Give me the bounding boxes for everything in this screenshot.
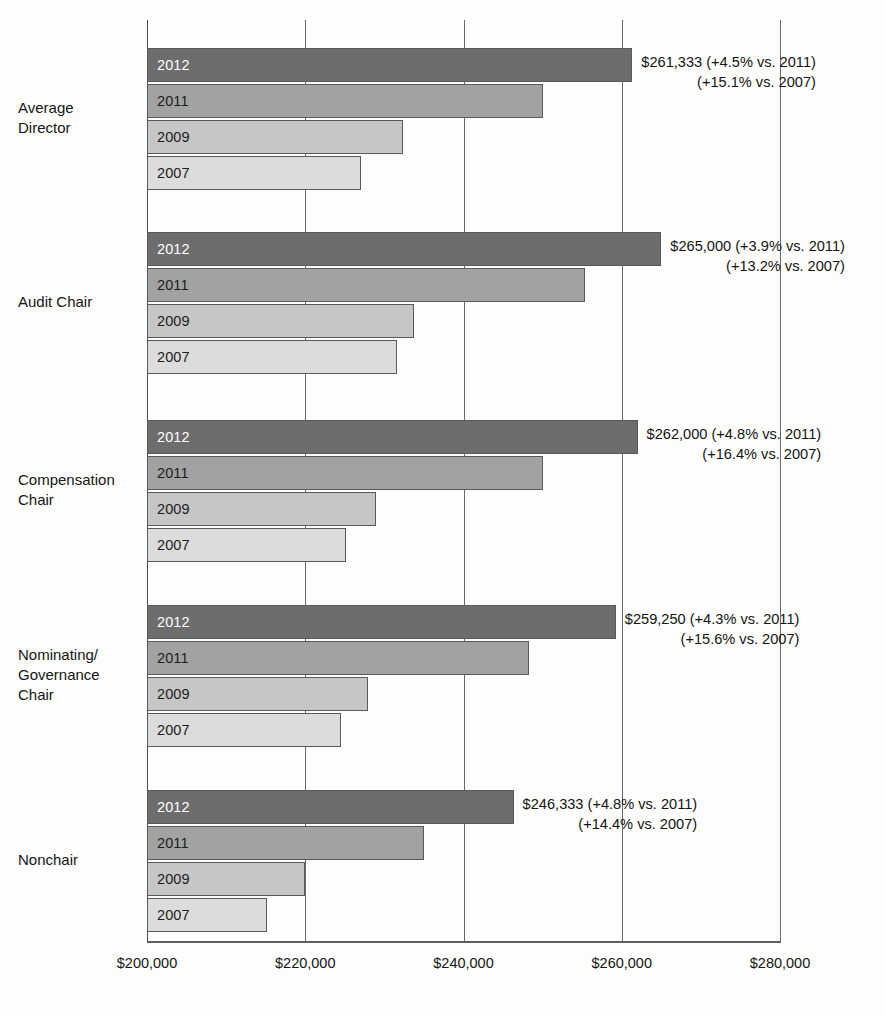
bar-2012[interactable]: 2012 [147, 232, 661, 266]
category-label-line: Nominating/ [18, 645, 146, 665]
bar-year-label: 2007 [157, 349, 190, 365]
value-annotation: $265,000 (+3.9% vs. 2011)(+13.2% vs. 200… [670, 236, 845, 276]
bar-2009[interactable]: 2009 [147, 304, 414, 338]
bar-2007[interactable]: 2007 [147, 528, 346, 562]
category-label-line: Nonchair [18, 850, 146, 870]
value-annotation-line1: $265,000 (+3.9% vs. 2011) [670, 238, 845, 254]
bar-2011[interactable]: 2011 [147, 268, 585, 302]
bar-2012[interactable]: 2012 [147, 605, 616, 639]
category-label-line: Compensation [18, 470, 146, 490]
value-annotation-line2: (+14.4% vs. 2007) [523, 814, 698, 834]
bar-year-label: 2012 [157, 799, 190, 815]
bar-year-label: 2007 [157, 165, 190, 181]
category-label: Audit Chair [18, 292, 146, 312]
value-annotation: $246,333 (+4.8% vs. 2011)(+14.4% vs. 200… [523, 794, 698, 834]
bar-year-label: 2007 [157, 907, 190, 923]
value-annotation-line2: (+16.4% vs. 2007) [647, 444, 822, 464]
director-compensation-bar-chart: 2012201120092007201220112009200720122011… [0, 0, 885, 1018]
category-label-line: Governance [18, 665, 146, 685]
x-tick-label-220000: $220,000 [275, 955, 335, 971]
bar-year-label: 2012 [157, 57, 190, 73]
bar-year-label: 2011 [157, 835, 189, 851]
bar-2009[interactable]: 2009 [147, 862, 305, 896]
bar-year-label: 2009 [157, 871, 190, 887]
bar-2011[interactable]: 2011 [147, 641, 529, 675]
category-label-line: Average [18, 98, 146, 118]
bar-2012[interactable]: 2012 [147, 420, 638, 454]
category-label-line: Director [18, 118, 146, 138]
value-annotation: $259,250 (+4.3% vs. 2011)(+15.6% vs. 200… [625, 609, 800, 649]
bar-year-label: 2007 [157, 537, 190, 553]
bar-year-label: 2011 [157, 93, 189, 109]
bar-year-label: 2009 [157, 501, 190, 517]
value-annotation: $262,000 (+4.8% vs. 2011)(+16.4% vs. 200… [647, 424, 822, 464]
bar-2012[interactable]: 2012 [147, 48, 632, 82]
value-annotation: $261,333 (+4.5% vs. 2011)(+15.1% vs. 200… [641, 52, 816, 92]
bar-2007[interactable]: 2007 [147, 898, 267, 932]
bar-2011[interactable]: 2011 [147, 456, 543, 490]
x-tick-label-240000: $240,000 [433, 955, 493, 971]
bar-2011[interactable]: 2011 [147, 84, 543, 118]
bar-year-label: 2012 [157, 429, 190, 445]
gridline-280000 [780, 20, 781, 943]
category-label-line: Chair [18, 685, 146, 705]
value-annotation-line1: $262,000 (+4.8% vs. 2011) [647, 426, 822, 442]
category-label: CompensationChair [18, 470, 146, 510]
x-tick-label-280000: $280,000 [750, 955, 810, 971]
bar-2011[interactable]: 2011 [147, 826, 424, 860]
value-annotation-line2: (+15.6% vs. 2007) [625, 629, 800, 649]
x-tick-label-200000: $200,000 [117, 955, 177, 971]
x-axis-baseline [147, 941, 781, 943]
bar-2009[interactable]: 2009 [147, 120, 403, 154]
x-tick-label-260000: $260,000 [592, 955, 652, 971]
bar-year-label: 2007 [157, 722, 190, 738]
bar-year-label: 2011 [157, 650, 189, 666]
bar-2007[interactable]: 2007 [147, 713, 341, 747]
category-label-line: Audit Chair [18, 292, 146, 312]
bar-year-label: 2009 [157, 686, 190, 702]
category-label: Nonchair [18, 850, 146, 870]
bar-year-label: 2012 [157, 241, 190, 257]
bar-year-label: 2009 [157, 129, 190, 145]
category-label-line: Chair [18, 490, 146, 510]
value-annotation-line2: (+15.1% vs. 2007) [641, 72, 816, 92]
value-annotation-line1: $246,333 (+4.8% vs. 2011) [523, 796, 698, 812]
bar-2009[interactable]: 2009 [147, 492, 376, 526]
value-annotation-line1: $259,250 (+4.3% vs. 2011) [625, 611, 800, 627]
bar-year-label: 2012 [157, 614, 190, 630]
bar-2009[interactable]: 2009 [147, 677, 368, 711]
category-label: AverageDirector [18, 98, 146, 138]
bar-year-label: 2009 [157, 313, 190, 329]
bar-year-label: 2011 [157, 465, 189, 481]
value-annotation-line1: $261,333 (+4.5% vs. 2011) [641, 54, 816, 70]
bar-2007[interactable]: 2007 [147, 156, 361, 190]
category-label: Nominating/GovernanceChair [18, 645, 146, 705]
bar-2007[interactable]: 2007 [147, 340, 397, 374]
bar-2012[interactable]: 2012 [147, 790, 514, 824]
value-annotation-line2: (+13.2% vs. 2007) [670, 256, 845, 276]
bar-year-label: 2011 [157, 277, 189, 293]
